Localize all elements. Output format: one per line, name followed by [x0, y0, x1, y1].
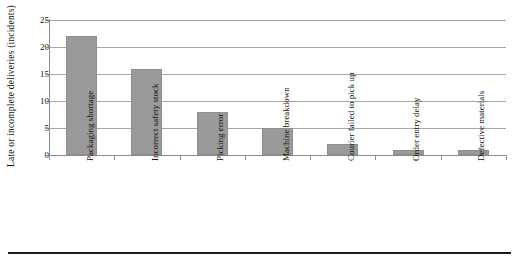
category-label-text: Defective materials — [477, 91, 486, 161]
category-label-text: Packaging shortage — [86, 91, 95, 161]
y-tick-label: 25 — [5, 16, 49, 25]
y-tick-label: 0 — [5, 151, 49, 160]
category-label-text: Courier failed to pick up — [347, 73, 356, 161]
x-tick-mark — [114, 155, 115, 160]
bars-layer — [49, 20, 506, 155]
bottom-rule-divider — [8, 252, 511, 254]
category-label: Picking error — [205, 161, 219, 246]
x-tick-mark — [441, 155, 442, 160]
category-label: Packaging shortage — [75, 161, 89, 246]
x-tick-mark — [310, 155, 311, 160]
category-labels: Packaging shortageIncorrect safety stock… — [49, 161, 506, 246]
category-label-text: Machine breakdown — [282, 87, 291, 161]
category-label: Defective materials — [466, 161, 480, 246]
y-tick-label: 20 — [5, 43, 49, 52]
bar-chart-figure: Late or incomplete deliveries (incidents… — [0, 0, 519, 272]
category-label-text: Order entry delay — [412, 98, 421, 161]
y-axis-ticks: 0510152025 — [0, 0, 49, 272]
y-tick-label: 5 — [5, 124, 49, 133]
x-tick-mark — [245, 155, 246, 160]
category-label: Incorrect safety stock — [140, 161, 154, 246]
category-label: Machine breakdown — [271, 161, 285, 246]
category-label-text: Incorrect safety stock — [151, 84, 160, 161]
category-label: Order entry delay — [401, 161, 415, 246]
category-label-text: Picking error — [216, 114, 225, 161]
x-tick-mark — [180, 155, 181, 160]
x-tick-mark — [506, 155, 507, 160]
category-label: Courier failed to pick up — [336, 161, 350, 246]
x-tick-mark — [375, 155, 376, 160]
x-tick-mark — [49, 155, 50, 160]
y-tick-label: 10 — [5, 97, 49, 106]
y-tick-label: 15 — [5, 70, 49, 79]
